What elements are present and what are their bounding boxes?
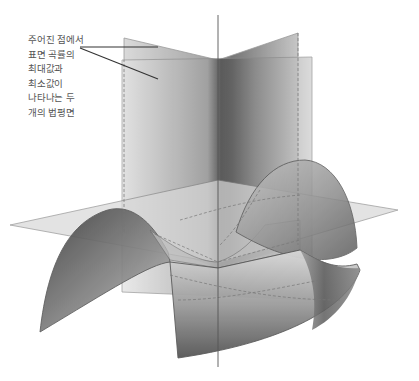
- caption-line: 개의 법평면: [28, 106, 84, 121]
- caption-line: 표면 곡률의: [28, 48, 84, 63]
- caption-line: 최대값과: [28, 62, 84, 77]
- caption-line: 주어진 점에서: [28, 33, 84, 48]
- annotation-caption: 주어진 점에서 표면 곡률의 최대값과 최소값이 나타나는 두 개의 법평면: [28, 33, 84, 120]
- figure: · · · · ·· · ·: [0, 0, 419, 381]
- caption-line: 최소값이: [28, 77, 84, 92]
- caption-line: 나타나는 두: [28, 91, 84, 106]
